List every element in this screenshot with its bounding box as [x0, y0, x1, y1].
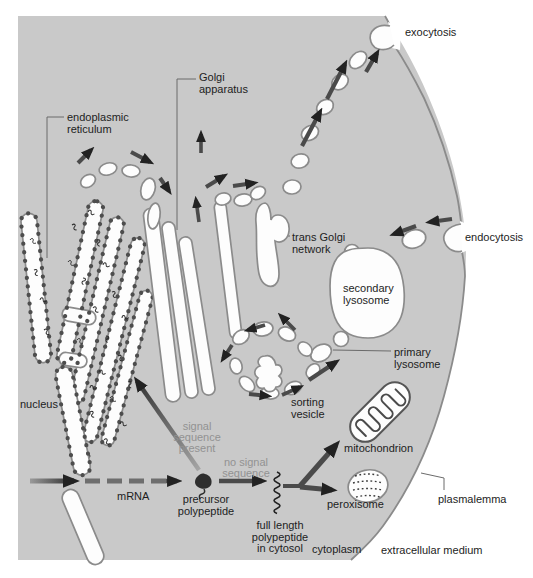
primary-lysosome-label-line1: primary: [394, 346, 431, 358]
full-length-polypeptide-label-line1: full length: [256, 519, 303, 531]
transport-arrow: [249, 394, 268, 396]
to-peroxisome-arrow: [300, 487, 332, 490]
no-signal-sequence-label-line2: sequence: [222, 467, 270, 479]
signal-sequence-present-label-line3: present: [179, 442, 216, 454]
full-length-polypeptide-label-line3: in cytosol: [257, 542, 303, 554]
golgi-apparatus-label-line1: Golgi: [199, 71, 225, 83]
vesicle: [282, 179, 301, 195]
endoplasmic-reticulum-label-line2: reticulum: [67, 123, 112, 135]
mitochondrion-label: mitochondrion: [344, 442, 413, 454]
plasmalemma-label: plasmalemma: [438, 493, 507, 505]
lysosome-bud: [334, 332, 349, 347]
vesicle: [122, 164, 141, 178]
extracellular-medium-label: extracellular medium: [381, 544, 482, 556]
nucleus-label: nucleus: [20, 398, 58, 410]
endocytosis-arrow: [430, 219, 452, 222]
endocytosis-label: endocytosis: [465, 231, 524, 243]
golgi-apparatus-label-line2: apparatus: [199, 83, 248, 95]
precursor-polypeptide-label-line1: precursor: [183, 493, 230, 505]
fusing-vesicle: [370, 25, 394, 49]
trans-golgi-network-label-line2: network: [292, 243, 331, 255]
endoplasmic-reticulum-label-line1: endoplasmic: [67, 111, 129, 123]
plasmalemma-leader-line: [421, 473, 444, 490]
trans-golgi-network-label-line1: trans Golgi: [292, 231, 345, 243]
exocytosis-label: exocytosis: [405, 26, 457, 38]
cytoplasm-label: cytoplasm: [312, 543, 362, 555]
sorting-vesicle-label-line2: vesicle: [291, 408, 325, 420]
precursor-polypeptide-label-line2: polypeptide: [178, 505, 234, 517]
secondary-lysosome-label-line2: lysosome: [343, 294, 389, 306]
secondary-lysosome-label-line1: secondary: [343, 282, 394, 294]
primary-lysosome-label-line2: lysosome: [394, 358, 440, 370]
sorting-vesicle-label-line1: sorting: [291, 396, 324, 408]
mrna-label: mRNA: [117, 490, 150, 502]
peroxisome-label: peroxisome: [327, 498, 384, 510]
cell-secretory-pathway-diagram: exocytosis endocytosis Golgi apparatus e…: [0, 0, 533, 578]
diagram-canvas: exocytosis endocytosis Golgi apparatus e…: [0, 0, 533, 578]
